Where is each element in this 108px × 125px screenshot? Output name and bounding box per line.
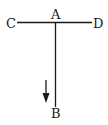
point-label-d: D	[93, 17, 103, 30]
point-label-b: B	[51, 107, 61, 120]
t-shaped-force-diagram: C A D B	[0, 0, 108, 125]
point-label-c: C	[6, 17, 16, 30]
point-label-a: A	[51, 8, 60, 21]
down-arrow-icon	[43, 80, 50, 103]
